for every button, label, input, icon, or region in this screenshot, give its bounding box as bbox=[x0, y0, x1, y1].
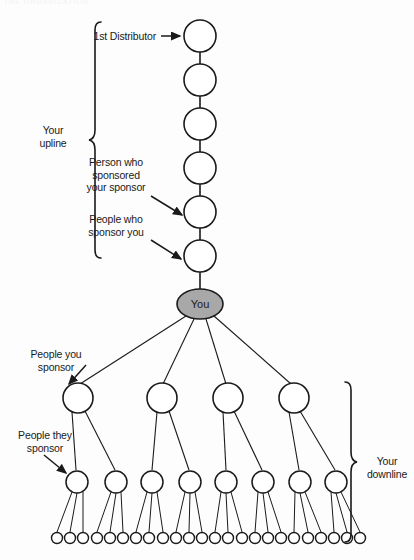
level3-node-12 bbox=[197, 533, 208, 544]
arrow-people-who-sponsor-you bbox=[151, 240, 181, 259]
label-people-they-sponsor: People they sponsor bbox=[6, 429, 84, 454]
your-downline-brace bbox=[345, 382, 357, 542]
level3-node-13 bbox=[210, 533, 221, 544]
level2-node-6 bbox=[252, 471, 274, 493]
label-people-who-sponsor-you: People who sponsor you bbox=[80, 213, 152, 238]
level3-node-9 bbox=[158, 533, 169, 544]
diagram-page: THE ORGANIZATION bbox=[0, 0, 414, 560]
level3-node-18 bbox=[276, 533, 287, 544]
level3-node-24 bbox=[355, 533, 366, 544]
label-people-you-sponsor: People you sponsor bbox=[16, 348, 96, 373]
you-to-level1-connectors bbox=[80, 316, 291, 384]
level1-node-2 bbox=[147, 383, 177, 413]
upline-node-3 bbox=[184, 108, 216, 140]
upline-node-1 bbox=[184, 20, 216, 52]
level2-node-8 bbox=[325, 471, 347, 493]
level3-node-16 bbox=[250, 533, 261, 544]
label-your-downline: Your downline bbox=[360, 455, 414, 480]
level2-node-2 bbox=[105, 471, 127, 493]
level3-node-20 bbox=[303, 533, 314, 544]
level2-node-7 bbox=[289, 471, 311, 493]
level2-to-level3-connectors bbox=[57, 492, 360, 532]
level3-node-15 bbox=[237, 533, 248, 544]
level3-node-1 bbox=[52, 533, 63, 544]
level3-node-21 bbox=[316, 533, 327, 544]
level2-node-4 bbox=[179, 471, 201, 493]
level3-node-6 bbox=[118, 533, 129, 544]
level3-node-2 bbox=[65, 533, 76, 544]
level2-node-1 bbox=[66, 471, 88, 493]
label-person-who-sponsored: Person who sponsored your sponsor bbox=[78, 156, 154, 194]
level1-nodes bbox=[63, 383, 309, 413]
upline-node-5 bbox=[184, 196, 216, 228]
upline-node-4 bbox=[184, 152, 216, 184]
upline-node-6 bbox=[184, 240, 216, 272]
level2-nodes bbox=[66, 471, 347, 493]
label-first-distributor: 1st Distributor bbox=[56, 30, 156, 43]
level3-nodes bbox=[52, 533, 366, 544]
level3-node-5 bbox=[105, 533, 116, 544]
level3-node-17 bbox=[263, 533, 274, 544]
level3-node-7 bbox=[131, 533, 142, 544]
level3-node-22 bbox=[329, 533, 340, 544]
level3-node-4 bbox=[92, 533, 103, 544]
level3-node-10 bbox=[171, 533, 182, 544]
arrow-person-who-sponsored bbox=[151, 196, 182, 215]
level1-node-4 bbox=[279, 383, 309, 413]
upline-node-2 bbox=[184, 64, 216, 96]
level3-node-19 bbox=[289, 533, 300, 544]
you-node-label: You bbox=[191, 298, 210, 310]
level3-node-8 bbox=[144, 533, 155, 544]
level3-node-14 bbox=[223, 533, 234, 544]
level1-node-1 bbox=[63, 383, 93, 413]
braces bbox=[89, 22, 357, 542]
level1-node-3 bbox=[213, 383, 243, 413]
level3-node-3 bbox=[78, 533, 89, 544]
level1-to-level2-connectors bbox=[72, 411, 335, 470]
level3-node-11 bbox=[184, 533, 195, 544]
level2-node-3 bbox=[141, 471, 163, 493]
level2-node-5 bbox=[215, 471, 237, 493]
label-your-upline: Your upline bbox=[22, 124, 84, 149]
genealogy-diagram: You bbox=[0, 0, 414, 560]
arrow-people-they-sponsor bbox=[44, 455, 66, 473]
